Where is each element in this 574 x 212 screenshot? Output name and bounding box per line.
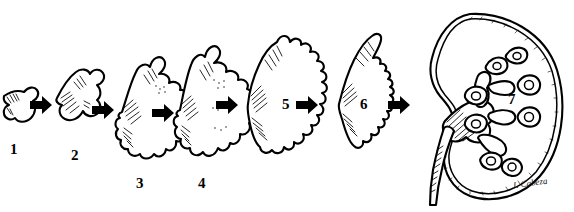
stage-4-shape: [174, 46, 255, 156]
stage-label-3: 3: [136, 176, 144, 191]
stage-6-shape: [339, 34, 394, 148]
stage-5-shape: [248, 36, 327, 153]
stage-label-7: 7: [508, 92, 516, 107]
stage-label-2: 2: [71, 148, 79, 163]
stage-label-4: 4: [198, 176, 206, 191]
kidney-development-figure: 1 2 3 4 5 6 7 J. Cabeza: [0, 0, 574, 212]
stage-label-1: 1: [10, 142, 18, 157]
stage-label-5: 5: [282, 97, 290, 112]
stage-label-6: 6: [360, 97, 368, 112]
renal-capsule: [430, 14, 562, 199]
